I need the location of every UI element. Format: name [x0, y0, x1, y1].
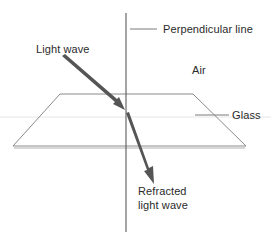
light-wave-label: Light wave [36, 43, 90, 56]
diagram-graphics [0, 0, 271, 243]
incident-arrow [62, 54, 125, 110]
perpendicular-line-label: Perpendicular line [163, 23, 253, 36]
refraction-diagram: Perpendicular line Light wave Air Glass … [0, 0, 271, 243]
glass-label: Glass [232, 109, 261, 122]
air-label: Air [192, 64, 206, 77]
refracted-label-line2: light wave [138, 199, 188, 212]
refracted-label-line1: Refracted [138, 185, 187, 198]
